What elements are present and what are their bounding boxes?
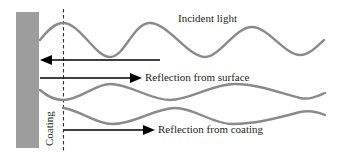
- coating-reflection-wave: [63, 108, 325, 124]
- incident-light-label: Incident light: [178, 12, 237, 24]
- surface-reflection-wave: [40, 84, 325, 100]
- arrowhead-right-icon: [130, 73, 142, 83]
- thin-film-interference-diagram: Incident light Reflection from surface R…: [0, 0, 339, 156]
- incident-wave: [40, 23, 324, 57]
- arrowhead-right-icon: [143, 125, 155, 135]
- arrowhead-left-icon: [40, 55, 52, 65]
- coating-label: Coating: [43, 111, 55, 146]
- reflection-from-surface-label: Reflection from surface: [145, 71, 250, 83]
- substrate-block: [16, 12, 39, 148]
- reflection-from-coating-label: Reflection from coating: [158, 123, 264, 135]
